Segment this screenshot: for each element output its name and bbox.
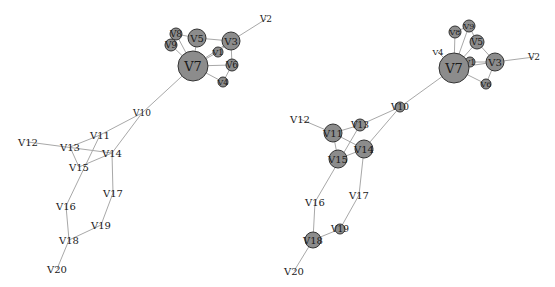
node-label: V8 — [169, 29, 182, 39]
node-v19: V19 — [90, 220, 111, 231]
node-v15: V15 — [68, 162, 89, 173]
node-v16: V16 — [55, 201, 76, 212]
node-label: V6 — [480, 80, 492, 89]
node-label: V8 — [449, 28, 461, 37]
node-v2: V2 — [259, 14, 272, 24]
node-label: V13 — [350, 120, 369, 130]
node-v17: V17 — [348, 190, 369, 201]
node-label: V3 — [487, 57, 502, 68]
node-label: V7 — [444, 61, 463, 76]
node-label: V14 — [353, 144, 374, 155]
node-label: V5 — [189, 33, 204, 44]
node-v5: V5 — [470, 35, 484, 49]
node-v20: V20 — [46, 264, 67, 275]
node-label: V3 — [223, 36, 238, 47]
node-label: V9 — [164, 40, 177, 50]
node-label: V16 — [304, 197, 325, 208]
node-v5: V5 — [188, 29, 206, 47]
node-label: V13 — [59, 142, 80, 153]
node-v14: V14 — [353, 140, 374, 158]
node-v4: V4 — [432, 48, 444, 57]
node-v16: V16 — [304, 197, 325, 208]
node-label: V11 — [322, 128, 343, 139]
node-label: V17 — [348, 190, 369, 201]
node-label: V15 — [327, 154, 348, 165]
node-v11: V11 — [89, 130, 110, 141]
node-v6: V6 — [480, 79, 492, 89]
node-label: V2 — [527, 52, 540, 62]
node-label: V7 — [183, 59, 202, 74]
node-label: V20 — [283, 266, 304, 277]
node-label: V12 — [17, 137, 38, 148]
nodes-right: V2V3V5V8V9V1V4V6V7V10V12V11V13V14V15V17V… — [283, 20, 540, 277]
nodes-left: V2V3V5V8V9V1V6V4V7V10V11V12V13V14V15V17V… — [17, 14, 272, 275]
node-label: V20 — [46, 264, 67, 275]
node-v18: V18 — [58, 235, 79, 246]
node-label: V5 — [470, 37, 483, 47]
node-v12: V12 — [289, 114, 310, 125]
node-label: V19 — [90, 220, 111, 231]
node-v8: V8 — [449, 26, 461, 38]
node-v20: V20 — [283, 266, 304, 277]
node-v18: V18 — [302, 232, 323, 248]
node-v8: V8 — [169, 28, 182, 40]
node-label: V12 — [289, 114, 310, 125]
node-v12: V12 — [17, 137, 38, 148]
node-label: V9 — [463, 22, 475, 31]
node-v13: V13 — [59, 142, 80, 153]
node-v3: V3 — [486, 53, 504, 71]
node-v4: V4 — [217, 77, 229, 87]
node-v17: V17 — [102, 188, 123, 199]
node-label: V19 — [330, 224, 349, 234]
node-v7: V7 — [439, 53, 469, 83]
node-label: V14 — [101, 148, 122, 159]
node-v6: V6 — [225, 59, 238, 71]
node-label: V1 — [212, 48, 224, 57]
node-label: V10 — [390, 102, 409, 112]
node-label: V15 — [68, 162, 89, 173]
node-v13: V13 — [350, 119, 369, 131]
node-v3: V3 — [222, 32, 240, 50]
node-label: V18 — [302, 235, 323, 246]
node-v10: V10 — [390, 102, 409, 112]
node-v19: V19 — [330, 224, 349, 234]
node-label: V17 — [102, 188, 123, 199]
node-v1: V1 — [212, 47, 224, 57]
node-v11: V11 — [322, 124, 343, 142]
node-v7: V7 — [178, 51, 208, 81]
node-label: V2 — [259, 14, 272, 24]
node-v15: V15 — [327, 150, 348, 168]
node-v10: V10 — [132, 108, 151, 118]
node-v14: V14 — [101, 148, 122, 159]
node-label: V6 — [225, 60, 238, 70]
network-graph-left: V2V3V5V8V9V1V6V4V7V10V11V12V13V14V15V17V… — [17, 14, 272, 275]
node-label: V10 — [132, 108, 151, 118]
network-diagram-canvas: V2V3V5V8V9V1V6V4V7V10V11V12V13V14V15V17V… — [0, 0, 555, 287]
node-label: V4 — [432, 48, 444, 57]
node-label: V11 — [89, 130, 110, 141]
node-v9: V9 — [164, 39, 177, 51]
node-v2: V2 — [527, 52, 540, 62]
node-label: V18 — [58, 235, 79, 246]
node-label: V16 — [55, 201, 76, 212]
network-graph-right: V2V3V5V8V9V1V4V6V7V10V12V11V13V14V15V17V… — [283, 20, 540, 277]
node-v9: V9 — [463, 20, 475, 32]
node-label: V4 — [217, 78, 229, 87]
